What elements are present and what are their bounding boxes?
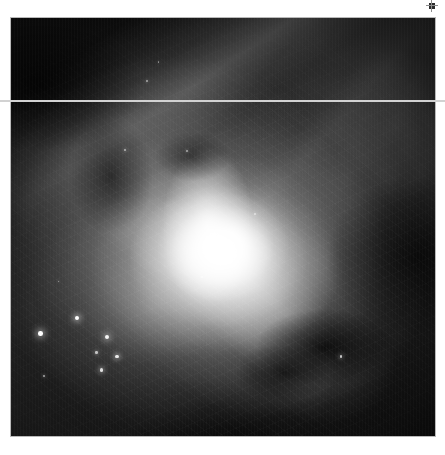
- nebula-core-layer: [11, 18, 435, 436]
- nebula-halo-layer: [11, 18, 435, 436]
- nebula-bright-bar-layer: [11, 18, 435, 436]
- star-15: [158, 61, 159, 62]
- canvas-root: [0, 0, 445, 455]
- star-7: [43, 375, 45, 377]
- corner-marker-icon: [429, 3, 435, 9]
- nebula-filament-layer: [11, 18, 435, 436]
- star-12: [201, 276, 203, 278]
- star-4: [115, 355, 119, 359]
- star-6: [100, 368, 103, 371]
- nebula-image-frame[interactable]: [10, 17, 436, 437]
- star-9: [124, 149, 126, 151]
- star-11: [186, 150, 188, 152]
- nebula-base-layer: [11, 18, 435, 436]
- star-3: [105, 335, 109, 339]
- star-8: [340, 355, 343, 358]
- star-5: [95, 351, 97, 353]
- nebula-plume-layer: [11, 18, 435, 436]
- horizontal-scanline-artifact: [0, 100, 445, 102]
- nebula-ccd-stripe-layer: [11, 18, 435, 436]
- star-13: [254, 213, 256, 215]
- nebula-dust-layer: [11, 18, 435, 436]
- star-14: [58, 281, 60, 283]
- star-10: [146, 80, 148, 82]
- nebula-image-plane: [11, 18, 435, 436]
- nebula-wisp-layer: [11, 18, 435, 436]
- star-1: [75, 316, 79, 320]
- star-2: [38, 331, 43, 336]
